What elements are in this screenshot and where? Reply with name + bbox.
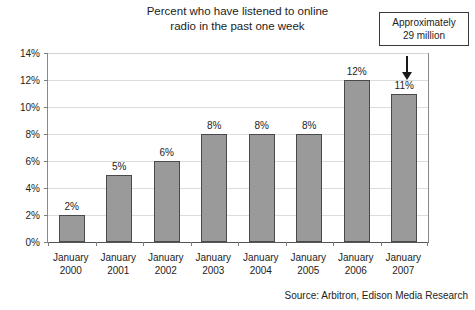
gridline [48,53,428,54]
x-axis-tick [143,242,144,246]
bar [201,134,227,242]
bar-value-label: 8% [289,120,329,131]
x-axis-category-label: January2007 [375,251,431,277]
gridline [48,80,428,81]
annotation-line-2: 29 million [382,29,466,42]
y-axis-tick [44,161,48,162]
x-axis-tick [96,242,97,246]
x-axis-tick [427,242,428,246]
category-year: 2007 [375,264,431,277]
y-axis-tick [44,53,48,54]
bar-value-label: 12% [337,66,377,77]
bar-value-label: 8% [194,120,234,131]
x-axis-tick [48,242,49,246]
annotation-callout: Approximately 29 million [379,12,469,46]
gridline [48,134,428,135]
x-axis-tick [191,242,192,246]
chart-container: Percent who have listened to online radi… [0,0,475,310]
bar [344,80,370,242]
x-axis-tick [333,242,334,246]
gridline [48,107,428,108]
category-month: January [375,251,431,264]
y-axis-tick [44,188,48,189]
y-axis-label: 12% [20,75,40,86]
bar-value-label: 2% [52,201,92,212]
y-axis-tick [44,215,48,216]
bar [59,215,85,242]
source-note: Source: Arbitron, Edison Media Research [0,290,468,301]
y-axis-label: 8% [26,129,40,140]
y-axis-tick [44,134,48,135]
bar [154,161,180,242]
annotation-arrow-icon [402,72,412,80]
y-axis-label: 14% [20,48,40,59]
y-axis-tick [44,80,48,81]
gridline [48,188,428,189]
y-axis-label: 10% [20,102,40,113]
bar-value-label: 5% [99,161,139,172]
y-axis-label: 2% [26,210,40,221]
y-axis-label: 4% [26,183,40,194]
x-axis-tick [238,242,239,246]
annotation-line-1: Approximately [382,16,466,29]
x-axis-tick [286,242,287,246]
bar-value-label: 6% [147,147,187,158]
bar [296,134,322,242]
bar-value-label: 8% [242,120,282,131]
y-axis-label: 0% [26,237,40,248]
gridline [48,215,428,216]
y-axis-tick [44,107,48,108]
x-axis-tick [381,242,382,246]
bar [106,175,132,243]
plot-area: 0%2%4%6%8%10%12%14%2%5%6%8%8%8%12%11% [47,53,429,243]
bar-value-label: 11% [384,80,424,91]
bar [391,94,417,243]
bar [249,134,275,242]
y-axis-label: 6% [26,156,40,167]
